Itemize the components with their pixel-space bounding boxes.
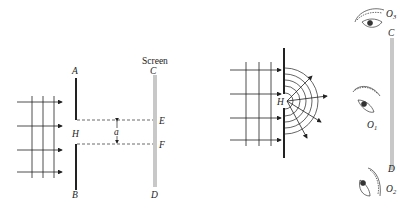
label-c-right: C xyxy=(388,28,395,38)
label-f: F xyxy=(158,140,165,150)
right-figure: O3 O1 O2 H C D xyxy=(230,9,397,196)
label-d-left: D xyxy=(150,190,158,200)
label-o1: O1 xyxy=(367,120,377,131)
screen-label: Screen xyxy=(142,56,168,66)
label-h-right: H xyxy=(276,97,285,107)
label-a-point: A xyxy=(71,66,78,76)
screen-cd-left xyxy=(153,75,157,187)
label-d-right: D xyxy=(387,164,395,174)
screen-cd-right xyxy=(390,38,394,170)
incident-wave-left xyxy=(17,96,62,178)
eye-o1-icon xyxy=(353,86,380,112)
label-b: B xyxy=(72,190,78,200)
label-slit-width: a xyxy=(114,127,119,137)
incident-wave-right xyxy=(230,62,281,146)
label-o2: O2 xyxy=(386,184,397,195)
left-figure: Screen A C H a E F B D xyxy=(17,56,168,200)
label-h-left: H xyxy=(71,129,80,139)
eye-o3-icon xyxy=(355,9,384,28)
label-c-left: C xyxy=(150,66,157,76)
eye-o2-icon xyxy=(359,168,380,196)
label-o3: O3 xyxy=(386,9,397,20)
label-e: E xyxy=(158,116,165,126)
